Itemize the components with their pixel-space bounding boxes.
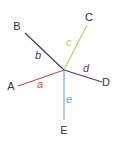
node-label-A: A <box>7 80 15 92</box>
edge-b <box>25 33 64 70</box>
node-label-B: B <box>13 20 20 32</box>
edge-label-e: e <box>66 93 72 105</box>
edge-label-c: c <box>66 36 72 48</box>
edge-label-b: b <box>35 49 41 61</box>
node-label-D: D <box>102 76 110 88</box>
edge-label-a: a <box>37 78 43 90</box>
node-label-C: C <box>85 11 93 23</box>
node-label-E: E <box>60 124 67 136</box>
tree-diagram: abcdeABCDE <box>0 0 122 142</box>
edge-label-d: d <box>83 62 90 74</box>
